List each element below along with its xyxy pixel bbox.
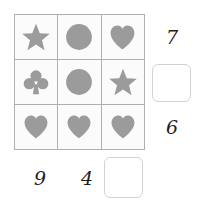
- grid-cell-r1c1: [15, 15, 57, 59]
- grid-cell-r2c3: [102, 60, 144, 104]
- circle-icon: [65, 23, 93, 51]
- grid-cell-r1c3: [102, 15, 144, 59]
- column-sum-label-2: 4: [76, 169, 98, 188]
- grid-cell-r2c2: [58, 60, 100, 104]
- star-icon: [21, 22, 51, 52]
- grid-cell-r2c1: [15, 60, 57, 104]
- symbol-sum-puzzle: 7 6 9 4: [0, 0, 201, 209]
- symbol-grid: [14, 14, 145, 150]
- grid-cell-r3c1: [15, 105, 57, 149]
- row-sum-label-3: 6: [161, 118, 183, 137]
- heart-icon: [109, 24, 136, 51]
- heart-icon: [66, 114, 92, 140]
- star-icon: [108, 67, 138, 97]
- heart-icon: [23, 114, 49, 140]
- row-sum-answer-box[interactable]: [152, 64, 191, 102]
- column-sum-label-1: 9: [29, 169, 51, 188]
- grid-cell-r3c3: [102, 105, 144, 149]
- column-sum-answer-box[interactable]: [104, 157, 143, 198]
- club-icon: [22, 68, 50, 96]
- row-sum-label-1: 7: [161, 28, 183, 47]
- grid-cell-r1c2: [58, 15, 100, 59]
- heart-icon: [110, 114, 136, 140]
- grid-cell-r3c2: [58, 105, 100, 149]
- circle-icon: [65, 68, 93, 96]
